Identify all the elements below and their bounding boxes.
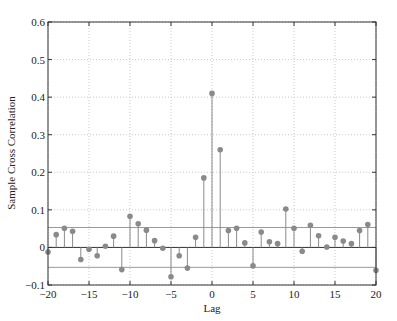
stem-marker [226,228,232,234]
y-tick-label: 0.1 [31,204,45,216]
stem-marker [250,263,256,269]
stem-marker [283,206,289,212]
stem-marker [70,228,76,234]
stem-marker [258,229,264,235]
y-tick-label: 0.2 [31,166,45,178]
stem-marker [176,253,182,259]
stem-marker [53,232,59,238]
stem-marker [357,228,363,234]
y-tick-label: 0.6 [31,16,45,28]
stem-marker [291,225,297,231]
stem-marker [234,225,240,231]
x-axis-label: Lag [203,302,221,314]
stem-marker [193,234,199,240]
stem-marker [127,213,133,219]
stem-marker [78,257,84,263]
stem-marker [242,240,248,246]
stem-marker [209,91,215,97]
stem-marker [299,248,305,254]
stem-marker [94,253,100,259]
stem-marker [135,221,141,227]
stem-marker [119,267,125,273]
stem-marker [275,241,281,247]
stem-marker [340,238,346,244]
y-tick-label: −0.1 [25,279,45,291]
stem-marker [349,241,355,247]
x-tick-label: 10 [289,288,301,300]
stem-marker [62,225,68,231]
stem-series [45,91,379,280]
x-tick-label: −15 [80,288,98,300]
y-tick-label: 0 [40,241,46,253]
stem-marker [111,233,117,239]
y-axis-label: Sample Cross Correlation [5,96,17,210]
stem-marker [316,233,322,239]
x-tick-label: −10 [121,288,139,300]
stem-marker [308,222,314,228]
stem-marker [168,274,174,280]
stem-marker [185,265,191,271]
stem-marker [365,222,371,228]
stem-marker [86,247,92,253]
y-tick-label: 0.5 [31,54,45,66]
stem-marker [217,147,223,153]
stem-marker [267,239,273,245]
cross-correlation-stem-plot: −20−15−10−505101520−0.100.10.20.30.40.50… [0,0,397,321]
y-tick-label: 0.4 [31,91,45,103]
x-tick-label: 15 [330,288,342,300]
stem-marker [324,244,330,250]
axis-ticks: −20−15−10−505101520−0.100.10.20.30.40.50… [25,16,382,300]
stem-marker [144,227,150,233]
x-tick-label: −5 [165,288,177,300]
y-tick-label: 0.3 [31,129,45,141]
stem-marker [332,234,338,240]
x-tick-label: 0 [209,288,215,300]
stem-marker [160,245,166,251]
stem-marker [152,238,158,244]
stem-marker [201,175,207,181]
x-tick-label: 5 [250,288,256,300]
stem-marker [103,244,109,250]
x-tick-label: 20 [371,288,383,300]
